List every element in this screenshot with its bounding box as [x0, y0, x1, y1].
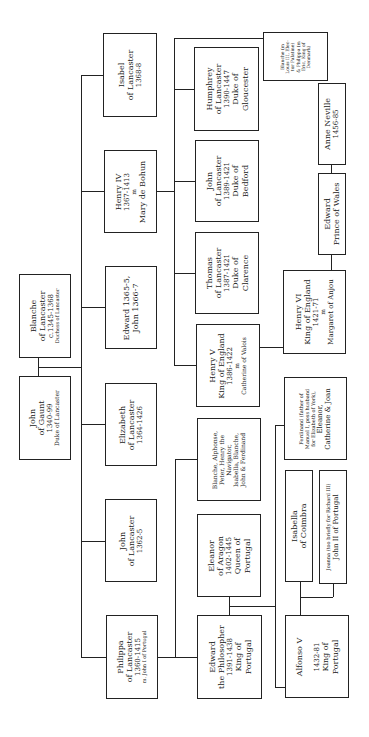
spine-henry-iv-children [174, 38, 175, 365]
connector-to-joanna [333, 584, 334, 597]
branch-humphrey [174, 89, 194, 90]
family-tree-diagram: Blanche of Lancaster c.1345-1368 Duchess… [0, 0, 369, 737]
person-elizabeth-of-lancaster: Elizabeth of Lancaster 1364-1426 [105, 383, 157, 466]
title: Duchess of Lancaster [55, 289, 61, 344]
person-thomas-duke-of-clarence: Thomas of Lancaster 1387-1421 Duke of Cl… [195, 232, 259, 314]
person-edward-and-john: Edward 1365-5, John 1366-7 [105, 266, 157, 349]
person-humphrey-of-lancaster: Humphrey of Lancaster 1390-1447 Duke of … [194, 47, 259, 131]
person-philippa-of-lancaster: Philippa of Lancaster 1360-1415 m. John … [106, 615, 158, 699]
connector-alfonso-children [300, 597, 333, 598]
spine-philippa-children [175, 459, 176, 657]
name-john: John 1366-7 [131, 283, 140, 332]
branch-john-1362 [81, 541, 105, 542]
name: Philippa [116, 640, 125, 673]
name: Eleanor [207, 540, 216, 572]
person-portugal-siblings: Blanche, Alphonse, Peter, Henry the Navi… [197, 418, 261, 501]
spouse: Margaret of Anjou [327, 279, 335, 344]
marriage-note: m. John I of Portugal [142, 631, 148, 684]
house: of Lancaster [38, 291, 47, 342]
name: Edward [207, 641, 216, 673]
line-6: Denmark) [306, 45, 311, 68]
line-4: & Philippa (m [296, 41, 301, 73]
house: of Lancaster [213, 64, 222, 115]
branch-henry-iv [81, 191, 104, 192]
dates: 1368-8 [135, 63, 143, 88]
branch-philippa [81, 657, 106, 658]
name: Blanche [29, 300, 38, 333]
house: of Lancaster [127, 399, 136, 450]
dates: 1402-1445 [225, 537, 233, 575]
name: John [118, 531, 127, 549]
house: of Lancaster [126, 50, 135, 101]
person-ferdinand-eleanor-catherine-joan: Ferdinand (father of Manuel I, poss husb… [284, 377, 347, 460]
person-john-of-gaunt: John of Gaunt 1340-99 Duke of Lancaster [19, 376, 71, 460]
person-john-of-lancaster-1362: John of Lancaster 1362-5 [105, 499, 157, 582]
person-eleanor-of-aragon: Eleanor of Aragon 1402-1445 Queen of Por… [197, 514, 261, 597]
dates: 1390-1447 [222, 70, 230, 108]
title: Duke of [231, 257, 240, 288]
branch-henry-v [174, 365, 196, 366]
name: Henry VI [294, 294, 303, 331]
title-place: Portugal [242, 538, 251, 573]
title: King of England [303, 279, 312, 344]
line-4: Eleanor, [316, 404, 324, 433]
line-2: Louis III, Elec- [285, 40, 290, 73]
title-place: Gloucester [240, 67, 249, 111]
title: Duke of [231, 73, 240, 104]
house: of Lancaster [214, 156, 223, 207]
house: of Lancaster [125, 632, 134, 683]
name: Humphrey [204, 67, 213, 110]
name: Henry V [208, 349, 217, 383]
line-5: John & Ferdinand [239, 432, 246, 486]
line-2: John II of Portugal [332, 494, 340, 559]
branch-isabel [81, 75, 103, 76]
name: Anne Neville [323, 98, 332, 150]
branch-edward-john [81, 307, 105, 308]
connector-gaunt-to-children [38, 367, 81, 368]
spine-gen2 [81, 75, 82, 657]
title-place: Portugal [243, 640, 252, 675]
title-place: Bedford [240, 165, 249, 197]
name: Isabel [117, 63, 126, 87]
line-1: Blanche (m [280, 44, 285, 70]
house: of Lancaster [214, 248, 223, 299]
dates: 1456-85 [333, 109, 341, 138]
person-henry-v: Henry V King of England 1386-1422 m Cath… [196, 324, 260, 407]
connector-henry-vi-edward [331, 255, 332, 270]
title: Duke of [231, 165, 240, 196]
name: Alfonso V [295, 637, 304, 676]
name: Elizabeth [118, 405, 127, 443]
line-3: for Elizabeth of York), [310, 391, 316, 447]
person-edward-the-philosopher: Edward the Philosopher 1391-1438 King of… [197, 615, 262, 699]
person-henry-iv: Henry IV 1367-1413 m Mary de Bohun [104, 150, 157, 233]
person-isabel-of-lancaster: Isabel of Lancaster 1368-8 [103, 33, 157, 117]
name-edward: Edward 1365-5, [122, 275, 131, 340]
person-edward-prince-of-wales: Edward Prince of Wales [318, 173, 346, 255]
person-henry-vi: Henry VI King of England 1421-71 m Marga… [283, 270, 346, 354]
connector-philippa-to-children [158, 657, 175, 658]
connector-henry-v-henry-vi [260, 347, 283, 348]
person-blanche-of-lancaster: Blanche of Lancaster c.1345-1368 Duchess… [19, 274, 71, 358]
house: of Aragon [216, 536, 225, 576]
title: Prince of Wales [332, 183, 341, 246]
title: King of [234, 642, 243, 671]
spine-edward-children [275, 425, 276, 687]
epithet: the Philosopher [216, 625, 225, 689]
title-place: Portugal [330, 639, 339, 674]
dates: 1387-1421 [223, 254, 231, 292]
name: Edward [323, 198, 332, 230]
branch-john-bedford [174, 181, 195, 182]
person-blanche-and-philippa: Blanche (m Louis III, Elec- tor Palatine… [263, 32, 328, 81]
line-5: Catherine & Joan [324, 388, 332, 450]
branch-thomas [174, 273, 195, 274]
house: of Lancaster [127, 515, 136, 566]
branch-elizabeth [81, 424, 105, 425]
spouse: Mary de Bohun [138, 160, 147, 222]
spouse: Catherine of Valois [241, 337, 248, 395]
house: of Coimbra [299, 503, 308, 548]
name: Henry IV [114, 173, 123, 210]
name: Isabella [290, 510, 299, 542]
dates: 1364-1426 [136, 406, 144, 444]
married-marker: m [320, 309, 327, 315]
line-3: tor Palatine) [290, 42, 295, 70]
